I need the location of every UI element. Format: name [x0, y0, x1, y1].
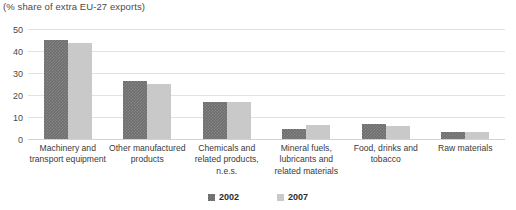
category-label: Mineral fuels,lubricants andrelated mate… — [267, 143, 347, 177]
bar-group — [187, 29, 267, 139]
category-label-line: Other manufactured — [109, 143, 187, 154]
bar-2002[interactable] — [44, 40, 68, 139]
y-axis-tick-label: 30 — [13, 74, 23, 75]
category-label-line: Food, drinks and — [347, 143, 425, 154]
gridline: 0 — [28, 139, 505, 140]
bar-2002[interactable] — [123, 81, 147, 139]
y-axis-tick-label: 50 — [13, 30, 23, 31]
legend-label: 2007 — [288, 192, 308, 202]
category-label-line: Mineral fuels, — [268, 143, 346, 154]
legend-item-2002[interactable]: 2002 — [208, 192, 239, 202]
category-label-line: Raw materials — [427, 143, 505, 154]
bar-2007[interactable] — [147, 84, 171, 139]
chart-subtitle: (% share of extra EU-27 exports) — [3, 1, 145, 12]
bar-pair — [267, 29, 347, 139]
category-label-line: transport equipment — [29, 154, 107, 165]
bar-2007[interactable] — [306, 125, 330, 139]
bar-pair — [187, 29, 267, 139]
bar-2007[interactable] — [68, 43, 92, 139]
y-axis-tick-label: 0 — [18, 140, 23, 141]
category-label: Chemicals andrelated products,n.e.s. — [187, 143, 267, 177]
bar-group — [426, 29, 506, 139]
bar-group — [108, 29, 188, 139]
legend-label: 2002 — [219, 192, 239, 202]
bar-group — [28, 29, 108, 139]
plot-area: 50403020100 — [28, 29, 505, 139]
category-label: Machinery andtransport equipment — [28, 143, 108, 177]
category-axis-labels: Machinery andtransport equipmentOther ma… — [28, 143, 505, 177]
legend-swatch-icon — [277, 194, 284, 201]
y-axis-tick-label: 10 — [13, 118, 23, 119]
category-label-line: Chemicals and — [188, 143, 266, 154]
bar-group — [346, 29, 426, 139]
bar-groups — [28, 29, 505, 139]
category-label-line: products — [109, 154, 187, 165]
bar-2007[interactable] — [227, 102, 251, 139]
bar-pair — [108, 29, 188, 139]
bar-2002[interactable] — [441, 132, 465, 139]
bar-chart: (% share of extra EU-27 exports) 5040302… — [0, 0, 516, 210]
y-axis-tick-label: 40 — [13, 52, 23, 53]
category-label-line: lubricants and — [268, 154, 346, 165]
category-label: Raw materials — [426, 143, 506, 177]
chart-legend: 20022007 — [0, 192, 516, 202]
bar-2002[interactable] — [362, 124, 386, 139]
category-label-line: Machinery and — [29, 143, 107, 154]
category-label: Other manufacturedproducts — [108, 143, 188, 177]
bar-group — [267, 29, 347, 139]
bar-pair — [346, 29, 426, 139]
bar-pair — [426, 29, 506, 139]
category-label-line: n.e.s. — [188, 166, 266, 177]
bar-2007[interactable] — [465, 132, 489, 139]
bar-2002[interactable] — [282, 129, 306, 139]
bar-pair — [28, 29, 108, 139]
y-axis-tick-label: 20 — [13, 96, 23, 97]
category-label: Food, drinks andtobacco — [346, 143, 426, 177]
legend-item-2007[interactable]: 2007 — [277, 192, 308, 202]
category-label-line: related products, — [188, 154, 266, 165]
category-label-line: tobacco — [347, 154, 425, 165]
bar-2007[interactable] — [386, 126, 410, 139]
category-label-line: related materials — [268, 166, 346, 177]
bar-2002[interactable] — [203, 102, 227, 139]
legend-swatch-icon — [208, 194, 215, 201]
